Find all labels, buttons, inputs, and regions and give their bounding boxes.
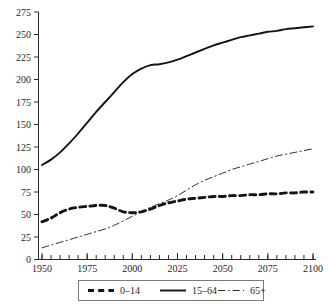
- y-axis-tick-labels: 0255075100125150175200225250275: [16, 7, 31, 266]
- y-tick-label: 150: [16, 119, 31, 130]
- x-axis: 1950197520002025205020752100: [32, 253, 323, 274]
- population-projection-chart: 0255075100125150175200225250275 19501975…: [0, 0, 329, 304]
- x-tick-label: 2100: [303, 263, 323, 274]
- x-tick-label: 1950: [32, 263, 52, 274]
- y-tick-label: 25: [21, 232, 31, 243]
- y-tick-label: 100: [16, 164, 31, 175]
- series-line-65-: [42, 149, 313, 248]
- x-tick-label: 1975: [77, 263, 97, 274]
- y-axis-ticks: [34, 12, 39, 260]
- x-axis-major-ticks: [42, 253, 313, 260]
- y-tick-label: 75: [21, 187, 31, 198]
- chart-legend: 0–1415–6465+: [79, 281, 267, 301]
- series-line-0-14: [42, 192, 313, 222]
- y-tick-label: 175: [16, 97, 31, 108]
- y-axis: 0255075100125150175200225250275: [16, 7, 39, 266]
- y-tick-label: 275: [16, 7, 31, 18]
- y-tick-label: 125: [16, 142, 31, 153]
- y-tick-label: 0: [26, 254, 31, 265]
- legend-label-15-64: 15–64: [192, 285, 217, 296]
- y-tick-label: 50: [21, 209, 31, 220]
- x-tick-label: 2075: [258, 263, 278, 274]
- series-line-15-64: [42, 26, 313, 165]
- x-tick-label: 2025: [168, 263, 188, 274]
- legend-label-0-14: 0–14: [120, 285, 140, 296]
- chart-canvas: 0255075100125150175200225250275 19501975…: [0, 0, 329, 304]
- legend-label-65-: 65+: [250, 285, 266, 296]
- y-tick-label: 250: [16, 29, 31, 40]
- data-series-group: [42, 26, 313, 247]
- x-tick-label: 2050: [213, 263, 233, 274]
- x-tick-label: 2000: [122, 263, 142, 274]
- x-axis-tick-labels: 1950197520002025205020752100: [32, 263, 323, 274]
- y-tick-label: 200: [16, 74, 31, 85]
- y-tick-label: 225: [16, 52, 31, 63]
